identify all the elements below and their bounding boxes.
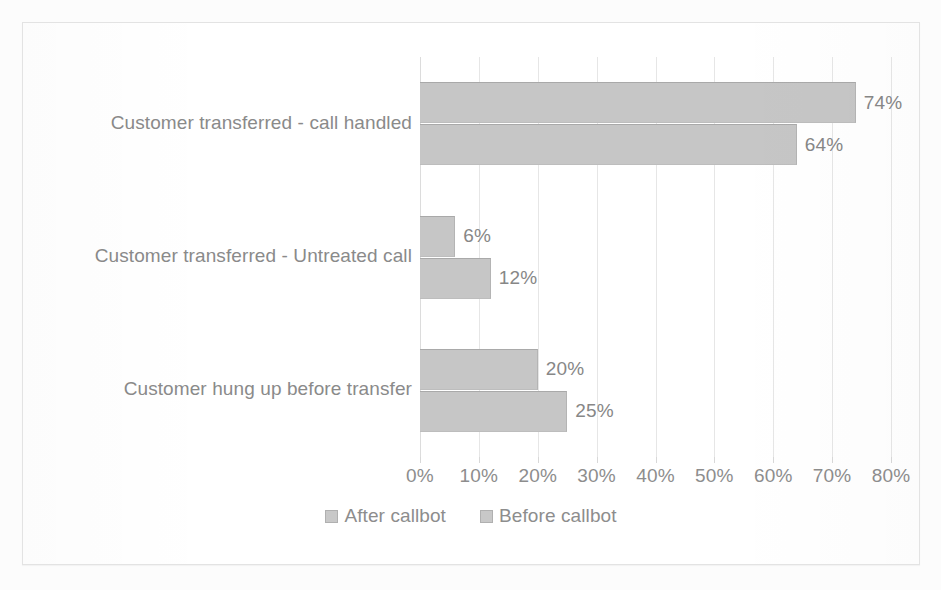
legend-item[interactable]: Before callbot xyxy=(480,505,617,527)
tick-mark-40 xyxy=(656,457,657,463)
x-tick-label: 80% xyxy=(872,465,911,487)
tick-mark-50 xyxy=(714,457,715,463)
tick-mark-70 xyxy=(832,457,833,463)
x-tick-label: 10% xyxy=(460,465,499,487)
bar[interactable]: 12% xyxy=(420,258,491,299)
x-tick-label: 20% xyxy=(518,465,557,487)
x-tick-label: 60% xyxy=(754,465,793,487)
gridline-80 xyxy=(891,57,892,457)
x-axis-tick-labels: 0%10%20%30%40%50%60%70%80% xyxy=(420,465,891,495)
x-tick-label: 40% xyxy=(636,465,675,487)
bar-value-label: 12% xyxy=(499,267,538,289)
chart-page: 74%64%6%12%20%25% Customer transferred -… xyxy=(0,0,941,590)
bar[interactable]: 64% xyxy=(420,124,797,165)
x-tick-label: 0% xyxy=(406,465,434,487)
category-axis-labels: Customer transferred - call handledCusto… xyxy=(23,57,412,457)
bar-value-label: 6% xyxy=(463,225,491,247)
tick-mark-30 xyxy=(597,457,598,463)
tick-mark-0 xyxy=(420,457,421,463)
legend-swatch-icon xyxy=(325,510,338,523)
x-tick-label: 70% xyxy=(813,465,852,487)
chart-panel: 74%64%6%12%20%25% Customer transferred -… xyxy=(22,22,920,565)
tick-mark-60 xyxy=(773,457,774,463)
bar-group: 74%64% xyxy=(420,82,891,165)
tick-mark-20 xyxy=(538,457,539,463)
tick-mark-80 xyxy=(891,457,892,463)
legend-label: Before callbot xyxy=(499,505,617,527)
bar[interactable]: 6% xyxy=(420,216,455,257)
plot-area: 74%64%6%12%20%25% xyxy=(420,57,891,457)
legend-swatch-icon xyxy=(480,510,493,523)
category-label: Customer transferred - call handled xyxy=(32,112,412,134)
bar-group: 6%12% xyxy=(420,216,891,299)
bar-value-label: 74% xyxy=(864,92,903,114)
bar-value-label: 20% xyxy=(546,358,585,380)
category-label: Customer transferred - Untreated call xyxy=(32,245,412,267)
category-label: Customer hung up before transfer xyxy=(32,378,412,400)
bar[interactable]: 74% xyxy=(420,82,856,123)
bar-group: 20%25% xyxy=(420,349,891,432)
chart-legend: After callbotBefore callbot xyxy=(23,505,919,527)
legend-label: After callbot xyxy=(344,505,446,527)
bar-value-label: 25% xyxy=(575,400,614,422)
bar[interactable]: 20% xyxy=(420,349,538,390)
bar[interactable]: 25% xyxy=(420,391,567,432)
x-tick-label: 30% xyxy=(577,465,616,487)
tick-mark-10 xyxy=(479,457,480,463)
x-tick-label: 50% xyxy=(695,465,734,487)
bar-value-label: 64% xyxy=(805,134,844,156)
legend-item[interactable]: After callbot xyxy=(325,505,446,527)
